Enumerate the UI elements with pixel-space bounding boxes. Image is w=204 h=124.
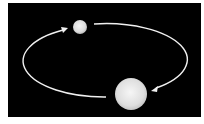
- small-body: [73, 20, 87, 34]
- orbit-diagram: [0, 0, 204, 124]
- large-body: [115, 78, 147, 110]
- background-panel: [8, 3, 201, 117]
